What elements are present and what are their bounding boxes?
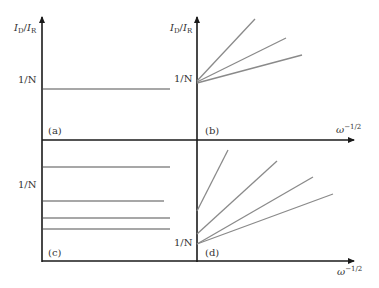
- y-axis-label-center: ID/IR: [169, 22, 193, 35]
- curve-b-1: [197, 19, 255, 81]
- tick-label-b: 1/N: [174, 73, 193, 84]
- panel-b: [197, 19, 302, 83]
- curve-d-4: [197, 194, 333, 244]
- panel-label-b: (b): [205, 125, 219, 136]
- panel-label-c: (c): [48, 247, 62, 258]
- panel-d: [197, 150, 333, 244]
- curve-d-2: [197, 161, 277, 234]
- tick-label-a: 1/N: [18, 74, 37, 85]
- curve-d-1: [197, 150, 228, 211]
- tick-label-c: 1/N: [18, 179, 37, 190]
- panel-label-d: (d): [205, 247, 219, 258]
- curve-b-2: [197, 38, 286, 82]
- tick-label-d: 1/N: [174, 237, 193, 248]
- x-axis-label-bottom: ω−1/2: [337, 265, 362, 277]
- y-axis-label-left: ID/IR: [13, 22, 37, 35]
- axes: [42, 17, 354, 262]
- curve-b-3: [197, 55, 302, 83]
- curve-d-3: [197, 177, 313, 244]
- panel-label-a: (a): [48, 125, 62, 136]
- x-axis-label-top: ω−1/2: [336, 123, 361, 135]
- panel-c: [43, 167, 170, 229]
- figure-four-panel-plot: ID/IR ID/IR 1/N 1/N 1/N 1/N (a) (b) (c) …: [0, 0, 379, 288]
